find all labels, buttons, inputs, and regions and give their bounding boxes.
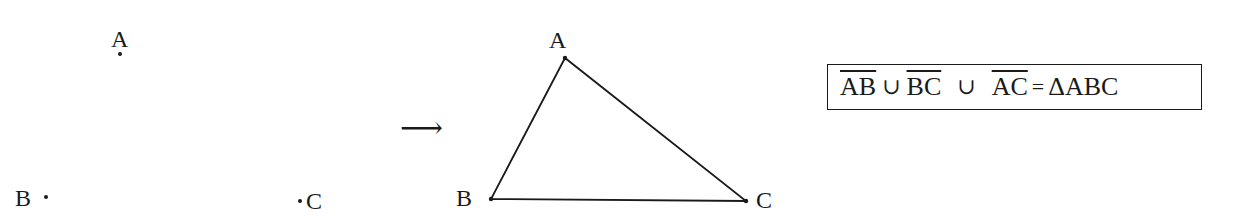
- formula-box: AB ∪ BC ∪ AC = ΔABC: [827, 64, 1202, 110]
- union-symbol: ∪: [882, 74, 900, 100]
- segment-bc: BC: [907, 72, 942, 102]
- segment-ab: AB: [840, 72, 876, 102]
- segment-ac: AC: [992, 72, 1028, 102]
- vertex-label-b: B: [456, 186, 472, 210]
- triangle-abc: [0, 0, 1234, 222]
- union-symbol: ∪: [957, 74, 975, 100]
- vertex-b: [489, 197, 493, 201]
- vertex-a: [563, 56, 567, 60]
- vertex-label-c: C: [756, 188, 772, 212]
- triangle-abc-notation: ΔABC: [1048, 72, 1118, 102]
- vertex-label-a: A: [549, 28, 566, 52]
- vertex-c: [744, 199, 748, 203]
- equals-symbol: =: [1032, 74, 1044, 100]
- triangle-sides: [491, 58, 746, 201]
